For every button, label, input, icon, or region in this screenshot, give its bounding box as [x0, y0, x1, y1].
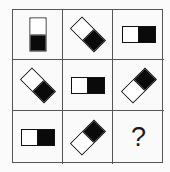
- cell-r3-c2: [63, 111, 113, 164]
- cell-r2-c3: [113, 60, 164, 111]
- half-filled-rectangle: [71, 77, 105, 94]
- half-filled-rectangle: [122, 26, 156, 43]
- white-half: [30, 19, 45, 36]
- half-filled-rectangle: [29, 18, 46, 52]
- half-filled-rectangle: [19, 67, 55, 103]
- black-half: [38, 130, 54, 145]
- black-half: [139, 27, 155, 42]
- white-half: [123, 27, 140, 42]
- black-half: [30, 35, 45, 51]
- white-half: [22, 130, 39, 145]
- white-half: [72, 78, 89, 93]
- cell-r1-c2: [63, 10, 113, 60]
- cell-r1-c3: [113, 10, 164, 60]
- half-filled-rectangle: [69, 119, 105, 155]
- cell-r3-c3-answer[interactable]: ?: [113, 111, 164, 164]
- puzzle-grid: ?: [12, 9, 163, 163]
- half-filled-rectangle: [21, 129, 55, 146]
- black-half: [88, 78, 104, 93]
- cell-r3-c1: [13, 111, 63, 164]
- cell-r2-c2: [63, 60, 113, 111]
- cell-r1-c1: [13, 10, 63, 60]
- half-filled-rectangle: [120, 67, 156, 103]
- half-filled-rectangle: [69, 16, 105, 52]
- question-mark: ?: [113, 123, 164, 150]
- cell-r2-c1: [13, 60, 63, 111]
